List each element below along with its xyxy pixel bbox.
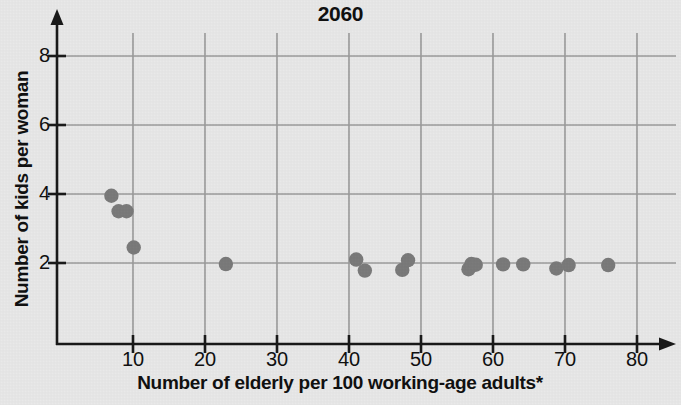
chart-figure: 2060 Number of kids per woman Number of … [0, 0, 681, 405]
y-axis [48, 9, 66, 345]
data-point [496, 257, 510, 271]
data-point [219, 257, 233, 271]
data-points-group [104, 189, 615, 278]
plot-area [0, 0, 681, 405]
data-point [401, 253, 415, 267]
data-point [358, 263, 372, 277]
horizontal-gridlines [57, 56, 676, 263]
data-point [127, 240, 141, 254]
data-point [549, 261, 563, 275]
data-point [104, 189, 118, 203]
data-point [516, 257, 530, 271]
data-point [469, 258, 483, 272]
data-point [119, 204, 133, 218]
x-axis [56, 335, 676, 353]
data-point [561, 258, 575, 272]
vertical-gridlines [133, 33, 637, 344]
data-point [601, 258, 615, 272]
